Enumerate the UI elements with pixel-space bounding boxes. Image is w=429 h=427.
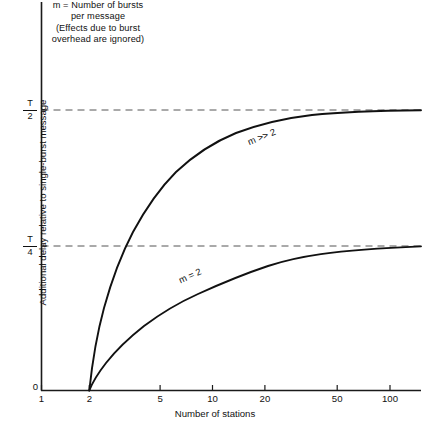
x-tick-label-50: 50	[322, 393, 352, 404]
curve-m-equals-2	[89, 246, 421, 390]
annotation-line-3: (Effects due to burst	[0, 23, 196, 34]
x-tick-label-1: 1	[27, 393, 57, 404]
x-tick-label-10: 10	[198, 393, 228, 404]
x-tick-label-100: 100	[375, 393, 405, 404]
x-tick-label-2: 2	[74, 393, 104, 404]
annotation-line-4: overhead are ignored)	[0, 34, 196, 45]
y-tick-label-zero: 0	[33, 381, 38, 392]
x-tick-label-5: 5	[145, 393, 175, 404]
annotation-line-1: m = Number of bursts	[0, 0, 196, 11]
curve-m-much-greater-than-2	[89, 110, 421, 390]
chart-figure: m = Number of bursts per message (Effect…	[0, 0, 429, 427]
annotation-line-2: per message	[0, 11, 196, 22]
x-axis-title: Number of stations	[150, 408, 280, 419]
chart-annotation: m = Number of bursts per message (Effect…	[0, 0, 196, 46]
chart-canvas	[0, 0, 429, 427]
x-axis-ticks	[42, 385, 391, 391]
x-tick-label-20: 20	[250, 393, 280, 404]
y-axis-title: Additional delay relative to single-burs…	[37, 58, 48, 348]
